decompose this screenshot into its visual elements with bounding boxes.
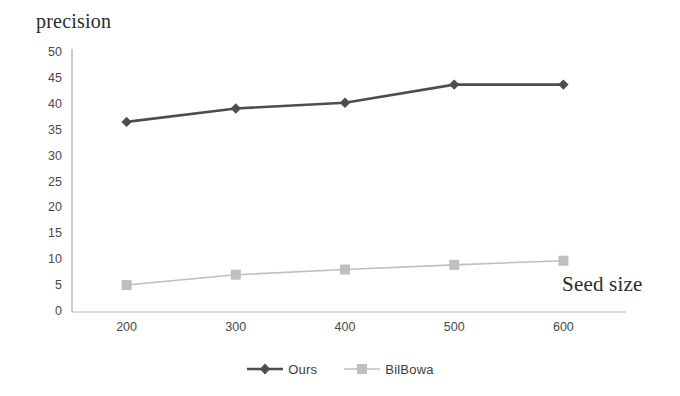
diamond-marker-icon — [558, 79, 568, 89]
square-marker-icon — [558, 256, 568, 266]
square-marker-icon — [122, 280, 132, 290]
legend-entry-bilbowa[interactable]: BilBowa — [343, 362, 433, 377]
square-marker-icon — [357, 364, 367, 374]
diamond-marker-icon — [246, 362, 284, 376]
plot-area — [0, 0, 680, 396]
legend-entry-ours[interactable]: Ours — [246, 362, 317, 377]
series-ours — [121, 79, 568, 127]
series-bilbowa — [122, 256, 569, 290]
chart-legend: OursBilBowa — [0, 356, 680, 382]
legend-label: Ours — [288, 362, 317, 377]
square-marker-icon — [340, 265, 350, 275]
diamond-marker-icon — [231, 103, 241, 113]
diamond-marker-icon — [121, 117, 131, 127]
legend-label: BilBowa — [385, 362, 433, 377]
diamond-marker-icon — [449, 79, 459, 89]
diamond-marker-icon — [340, 98, 350, 108]
square-marker-icon — [449, 260, 459, 270]
square-marker-icon — [231, 270, 241, 280]
diamond-marker-icon — [260, 364, 270, 375]
square-marker-icon — [343, 362, 381, 376]
precision-vs-seed-size-line-chart: precision Seed size 50454035302520151050… — [0, 0, 680, 396]
series-layer — [121, 79, 568, 290]
